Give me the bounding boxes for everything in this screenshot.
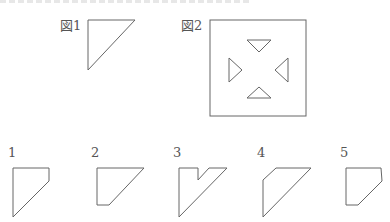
option-4-shape[interactable] [263,168,311,217]
option-2-shape[interactable] [97,168,144,205]
option-5-shape[interactable] [346,168,382,205]
figure-2-top-triangle [247,40,271,52]
figure-2-left-triangle [229,58,242,82]
figure-2-square [210,20,306,116]
figures-canvas [0,0,390,222]
figure-2-bottom-triangle [247,87,271,98]
figure-2 [210,20,306,116]
figure-1-triangle [88,20,135,70]
figure-2-right-triangle [275,58,288,82]
option-3-shape[interactable] [179,168,227,217]
option-1-shape[interactable] [13,168,49,217]
